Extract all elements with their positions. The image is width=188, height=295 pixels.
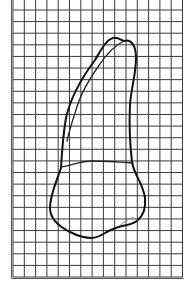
cemento-enamel-junction-line	[61, 161, 133, 167]
tooth-grid-diagram	[0, 0, 188, 295]
